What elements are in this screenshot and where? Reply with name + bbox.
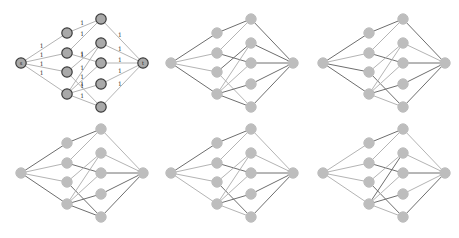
edge-b2-t <box>101 43 143 63</box>
node-b3 <box>96 58 106 68</box>
edge-b5-t <box>251 63 293 107</box>
edge-b2-t <box>251 153 293 173</box>
edge-b4-t <box>403 63 445 84</box>
node-s <box>318 58 328 68</box>
edges <box>171 129 293 217</box>
edge-b5-t <box>403 63 445 107</box>
capacity-label-a1-b1: 1 <box>80 19 84 26</box>
edges <box>171 19 293 107</box>
node-a4 <box>364 89 374 99</box>
edge-b1-t <box>251 129 293 173</box>
node-t <box>440 168 450 178</box>
node-b3 <box>96 168 106 178</box>
node-a3 <box>364 177 374 187</box>
node-a4 <box>212 199 222 209</box>
node-a2 <box>62 48 72 58</box>
node-b5 <box>398 212 408 222</box>
node-label-t: t <box>142 60 144 66</box>
edge-b4-t <box>251 173 293 194</box>
edge-b1-t <box>403 19 445 63</box>
node-b1 <box>246 14 256 24</box>
edge-b2-t <box>101 153 143 173</box>
node-a3 <box>212 67 222 77</box>
capacity-label-b5-t: 1 <box>118 80 122 87</box>
edge-b1-t <box>251 19 293 63</box>
node-b4 <box>398 79 408 89</box>
node-s <box>166 58 176 68</box>
node-a1 <box>62 28 72 38</box>
edges <box>323 19 445 107</box>
node-a4 <box>62 89 72 99</box>
capacity-label-a4-b3: 1 <box>80 73 84 80</box>
node-a3 <box>212 177 222 187</box>
panel-4 <box>0 110 155 230</box>
node-b5 <box>246 212 256 222</box>
edges: 111111111111111111 <box>21 19 143 107</box>
edge-b4-t <box>101 173 143 194</box>
node-a1 <box>364 28 374 38</box>
node-b3 <box>246 58 256 68</box>
node-t <box>138 168 148 178</box>
edge-b5-t <box>251 173 293 217</box>
node-b2 <box>398 38 408 48</box>
node-a1 <box>212 28 222 38</box>
node-a2 <box>62 158 72 168</box>
edge-b4-t <box>403 173 445 194</box>
node-b4 <box>96 189 106 199</box>
panel-2 <box>150 0 305 120</box>
capacity-label-a4-b5: 1 <box>80 92 84 99</box>
node-a4 <box>212 89 222 99</box>
node-t <box>288 168 298 178</box>
edge-b2-t <box>403 153 445 173</box>
node-b5 <box>96 212 106 222</box>
capacity-label-s-a2: 1 <box>40 51 44 58</box>
node-a1 <box>212 138 222 148</box>
edge-b1-t <box>403 129 445 173</box>
panel-3 <box>302 0 457 120</box>
node-t <box>288 58 298 68</box>
edge-b5-t <box>403 173 445 217</box>
capacity-label-a4-b2: 1 <box>80 64 84 71</box>
node-b4 <box>96 79 106 89</box>
node-b3 <box>398 58 408 68</box>
node-a1 <box>364 138 374 148</box>
node-b1 <box>398 124 408 134</box>
capacity-label-a3-b2: 1 <box>80 51 84 58</box>
node-b2 <box>246 38 256 48</box>
node-b1 <box>398 14 408 24</box>
node-a2 <box>364 158 374 168</box>
edges <box>323 129 445 217</box>
panel-5 <box>150 110 305 230</box>
node-b4 <box>246 79 256 89</box>
node-s <box>318 168 328 178</box>
node-s <box>16 168 26 178</box>
edge-b5-t <box>101 173 143 217</box>
edge-b5-t <box>101 63 143 107</box>
panel-1: 111111111111111111st <box>0 0 155 120</box>
edge-b4-t <box>101 63 143 84</box>
node-b2 <box>398 148 408 158</box>
edge-b2-t <box>251 43 293 63</box>
figure: 111111111111111111st <box>0 0 459 238</box>
capacity-label-s-a1: 1 <box>40 42 44 49</box>
node-b4 <box>246 189 256 199</box>
capacity-label-b2-t: 1 <box>118 45 122 52</box>
node-b1 <box>96 124 106 134</box>
node-label-s: s <box>20 60 23 66</box>
node-b3 <box>398 168 408 178</box>
capacity-label-b3-t: 1 <box>118 56 122 63</box>
node-a2 <box>212 48 222 58</box>
node-a4 <box>364 199 374 209</box>
node-a3 <box>62 177 72 187</box>
capacity-label-a4-b4: 1 <box>80 82 84 89</box>
edges <box>21 129 143 217</box>
panel-6 <box>302 110 457 230</box>
node-a3 <box>364 67 374 77</box>
node-s <box>166 168 176 178</box>
node-b3 <box>246 168 256 178</box>
edge-b4-t <box>251 63 293 84</box>
capacity-label-b4-t: 1 <box>118 67 122 74</box>
node-t <box>440 58 450 68</box>
capacity-label-s-a4: 1 <box>40 69 44 76</box>
node-a4 <box>62 199 72 209</box>
